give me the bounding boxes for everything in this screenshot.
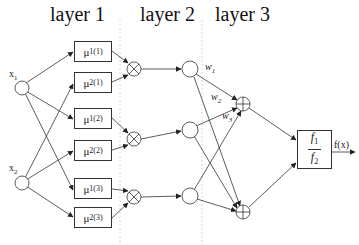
output-label-fx: f(x)	[334, 139, 349, 150]
weight-label-w1: w1	[205, 61, 215, 75]
normalization-node-2	[182, 122, 198, 138]
connections-layer	[0, 0, 359, 245]
membership-function-mu2-3: μ2(3)	[74, 207, 112, 228]
product-node-1	[127, 62, 141, 76]
product-nodes	[127, 62, 141, 204]
membership-function-mu2-2: μ2(2)	[74, 140, 112, 161]
denominator-f2: f2	[311, 150, 318, 168]
membership-function-mu1-3: μ1(3)	[74, 178, 112, 199]
product-node-3	[127, 190, 141, 204]
input-node-x1	[15, 81, 29, 95]
normalization-node-1	[182, 61, 198, 77]
input-label-x1: x1	[9, 68, 18, 82]
weight-label-w2: w2	[211, 91, 221, 105]
input-label-x2: x2	[9, 162, 18, 176]
product-node-2	[127, 132, 141, 146]
numerator-f1: f1	[308, 131, 321, 150]
membership-function-mu2-1: μ2(1)	[74, 72, 112, 93]
membership-function-mu1-2: μ1(2)	[74, 108, 112, 129]
sum-node-2	[236, 205, 250, 219]
sum-node-1	[236, 97, 250, 111]
weight-label-w3: w3	[222, 110, 232, 124]
normalization-node-3	[182, 188, 198, 204]
membership-function-mu1-1: μ1(1)	[74, 41, 112, 62]
anfis-network-diagram: layer 1 layer 2 layer 3	[0, 0, 359, 245]
input-node-x2	[15, 176, 29, 190]
output-ratio-box: f1 f2	[297, 130, 332, 169]
